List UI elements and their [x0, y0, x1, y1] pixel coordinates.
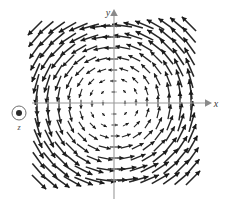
- field-vector-arrow: [101, 91, 104, 94]
- field-vector-arrow: [142, 152, 157, 161]
- x-axis-arrowhead: [205, 99, 212, 107]
- z-axis-label: z: [16, 123, 21, 132]
- field-vector-arrow: [58, 109, 62, 124]
- field-vector-arrow: [78, 133, 87, 142]
- field-vector-arrow: [145, 119, 151, 128]
- y-axis-label: y: [105, 7, 111, 18]
- field-vector-arrow: [64, 66, 73, 78]
- z-marker-dot-icon: [16, 110, 22, 116]
- field-vector-arrow: [155, 128, 164, 140]
- field-vector-arrow: [124, 112, 127, 115]
- field-vector-arrow: [117, 56, 129, 60]
- field-vector-arrow: [97, 69, 106, 73]
- field-vector-arrow: [150, 51, 162, 63]
- field-vector-arrow: [75, 67, 84, 76]
- field-vector-arrow: [143, 75, 149, 84]
- field-vector-arrow: [67, 88, 71, 100]
- field-vector-arrow: [163, 60, 172, 75]
- x-axis-label: x: [213, 98, 219, 109]
- field-vector-arrow: [77, 78, 83, 87]
- field-vector-arrow: [128, 55, 140, 61]
- field-vector-arrow: [86, 68, 95, 74]
- field-vector-arrow: [155, 84, 159, 96]
- field-vector-arrow: [79, 122, 85, 131]
- field-vector-arrow: [119, 67, 128, 71]
- field-vector-arrow: [130, 66, 139, 72]
- field-vector-arrow: [56, 131, 65, 146]
- field-vector-arrow: [90, 90, 93, 96]
- field-vector-arrow: [66, 143, 78, 155]
- arrow-head-icon: [178, 92, 183, 96]
- field-vector-arrow: [67, 132, 76, 144]
- arrow-head-icon: [103, 35, 107, 40]
- field-vector-arrow: [161, 49, 173, 64]
- field-vector-arrow: [154, 139, 166, 151]
- field-vector-arrow: [78, 89, 82, 98]
- field-vector-arrow: [152, 62, 161, 74]
- field-vector-arrow: [91, 112, 94, 118]
- field-vector-arrow: [99, 80, 105, 83]
- field-vector-arrow: [123, 123, 129, 126]
- field-vector-arrow: [123, 90, 126, 93]
- arrow-head-icon: [104, 46, 108, 50]
- arrow-head-icon: [101, 23, 106, 28]
- field-vector-arrow: [144, 86, 148, 95]
- field-vector-arrow: [90, 123, 96, 129]
- arrow-head-icon: [167, 93, 171, 97]
- z-axis-out-of-page-marker: z: [12, 106, 26, 132]
- field-vector-arrow: [144, 130, 153, 139]
- field-vector-arrow: [121, 79, 127, 82]
- field-vector-arrow: [71, 45, 86, 54]
- field-vector-arrow: [146, 108, 150, 117]
- field-vector-arrow: [135, 110, 138, 116]
- arrow-head-icon: [188, 90, 193, 95]
- field-vector-arrow: [157, 106, 161, 118]
- field-vector-arrow: [132, 77, 138, 83]
- field-vector-arrow: [77, 144, 89, 153]
- field-vector-arrow: [153, 150, 168, 162]
- field-vector-arrow: [134, 88, 137, 94]
- field-vector-arrow: [121, 144, 133, 148]
- field-vector-arrow: [88, 79, 94, 85]
- field-vector-arrow: [99, 146, 111, 150]
- field-vector-arrow: [122, 133, 131, 137]
- field-vector-arrow: [84, 57, 96, 63]
- field-vector-arrow: [73, 56, 85, 65]
- field-vector-arrow: [100, 135, 109, 139]
- field-vector-arrow: [68, 121, 74, 133]
- field-vector-arrow: [143, 141, 155, 150]
- vector-field-figure: x y z: [0, 0, 229, 206]
- field-vector-arrow: [62, 55, 74, 67]
- field-vector-arrow: [101, 124, 107, 127]
- field-vector-arrow: [134, 121, 140, 127]
- field-vector-arrow: [132, 143, 144, 149]
- field-vector-arrow: [154, 73, 160, 85]
- field-vector-arrow: [120, 155, 135, 159]
- field-vector-arrow: [156, 117, 162, 129]
- field-vector-arrow: [102, 113, 105, 116]
- y-axis-arrowhead: [110, 9, 118, 16]
- field-vector-arrow: [95, 58, 107, 62]
- field-vector-arrow: [133, 132, 142, 138]
- field-vector-arrow: [66, 77, 72, 89]
- field-vector-arrow: [80, 111, 84, 120]
- field-vector-arrow: [89, 134, 98, 140]
- field-vector-arrow: [141, 64, 150, 73]
- field-vector-arrow: [69, 110, 73, 122]
- field-vector-arrow: [139, 53, 151, 62]
- field-vector-arrow: [88, 145, 100, 151]
